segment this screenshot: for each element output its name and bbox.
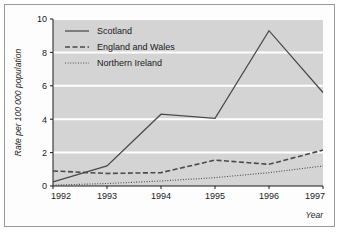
y-tick-label: 8	[42, 48, 47, 58]
y-tick-label: 10	[37, 14, 47, 24]
chart-figure: 0246810 199219931994199519961997 Scotlan…	[4, 4, 335, 227]
y-tick-label: 0	[42, 181, 47, 191]
y-tick-label: 2	[42, 148, 47, 158]
x-axis-title: Year	[306, 210, 325, 220]
x-tick-label: 1997	[305, 191, 325, 201]
legend-label: England and Wales	[97, 42, 175, 52]
x-tick-label: 1994	[151, 191, 171, 201]
x-axis-ticks: 199219931994199519961997	[51, 186, 325, 201]
legend-label: Scotland	[97, 26, 132, 36]
plot-background	[53, 19, 323, 186]
y-axis-ticks: 0246810	[37, 14, 53, 191]
x-tick-label: 1992	[51, 191, 71, 201]
y-tick-label: 4	[42, 115, 47, 125]
line-chart-svg: 0246810 199219931994199519961997 Scotlan…	[5, 5, 336, 228]
x-tick-label: 1995	[205, 191, 225, 201]
x-tick-label: 1993	[97, 191, 117, 201]
chart-plot-area: 0246810 199219931994199519961997 Scotlan…	[5, 5, 336, 228]
x-tick-label: 1996	[259, 191, 279, 201]
y-axis-title: Rate per 100 000 population	[13, 49, 23, 157]
legend-label: Northern Ireland	[97, 58, 162, 68]
y-tick-label: 6	[42, 81, 47, 91]
